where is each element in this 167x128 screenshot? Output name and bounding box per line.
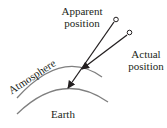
apparent-label-line1: Apparent [58, 5, 106, 17]
apparent-label-line2: position [58, 17, 106, 29]
actual-label-line2: position [126, 60, 166, 72]
apparent-star-icon [114, 17, 119, 22]
actual-light-ray [82, 35, 127, 69]
earth-label: Earth [48, 108, 78, 120]
actual-label-line1: Actual [126, 48, 166, 60]
apparent-sight-line [68, 22, 114, 88]
actual-star-icon [127, 30, 132, 35]
apparent-position-label: Apparent position [58, 5, 106, 29]
actual-position-label: Actual position [126, 48, 166, 72]
